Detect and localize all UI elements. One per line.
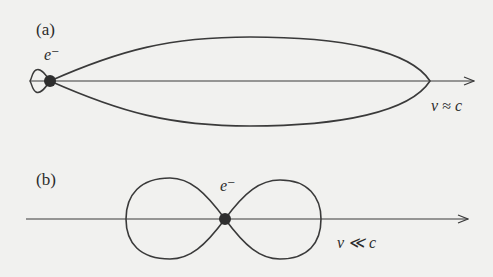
velocity-label-b: v ≪ c bbox=[337, 233, 376, 252]
panel-a bbox=[30, 37, 474, 126]
panel-b bbox=[26, 178, 468, 259]
panel-b-label: (b) bbox=[36, 170, 56, 190]
electron-label-b: e⁻ bbox=[220, 176, 236, 195]
radiation-pattern-diagram bbox=[0, 0, 493, 277]
panel-a-label: (a) bbox=[36, 20, 55, 40]
electron-dot-a bbox=[44, 75, 56, 87]
electron-dot-b bbox=[219, 213, 231, 225]
electron-label-a: e⁻ bbox=[44, 45, 60, 64]
velocity-label-a: v ≈ c bbox=[431, 97, 462, 115]
